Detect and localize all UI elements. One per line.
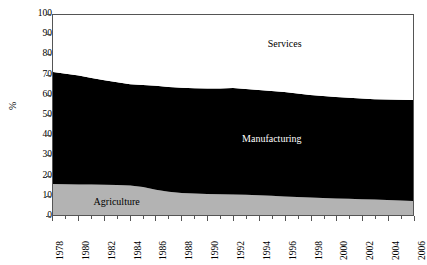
x-tick-mark xyxy=(104,216,105,221)
x-tick-mark xyxy=(285,216,286,221)
x-tick-mark-minor xyxy=(272,216,273,219)
x-tick-mark-minor xyxy=(349,216,350,219)
x-tick-label: 1988 xyxy=(185,241,195,260)
x-tick-mark-minor xyxy=(246,216,247,219)
x-tick-label: 1980 xyxy=(82,241,92,260)
x-tick-mark xyxy=(207,216,208,221)
stacked-area-chart: % 0102030405060708090100 Services Manufa… xyxy=(0,0,427,265)
x-tick-mark-minor xyxy=(194,216,195,219)
x-tick-mark xyxy=(78,216,79,221)
x-tick-label: 1984 xyxy=(134,241,144,260)
x-tick-mark-minor xyxy=(143,216,144,219)
x-tick-mark xyxy=(155,216,156,221)
x-tick-mark xyxy=(233,216,234,221)
x-tick-label: 2004 xyxy=(392,241,402,260)
x-tick-label: 2006 xyxy=(418,241,427,260)
x-tick-mark-minor xyxy=(65,216,66,219)
x-tick-mark xyxy=(362,216,363,221)
x-tick-mark-minor xyxy=(401,216,402,219)
x-tick-mark xyxy=(130,216,131,221)
x-tick-mark-minor xyxy=(324,216,325,219)
x-tick-mark-minor xyxy=(220,216,221,219)
x-tick-mark xyxy=(388,216,389,221)
x-tick-mark xyxy=(52,216,53,221)
x-tick-mark-minor xyxy=(168,216,169,219)
x-tick-mark xyxy=(414,216,415,221)
x-tick-mark-minor xyxy=(375,216,376,219)
x-tick-label: 2002 xyxy=(366,241,376,260)
x-tick-label: 1998 xyxy=(315,241,325,260)
x-axis-ticks: 1978198019821984198619881990199219941996… xyxy=(0,0,427,265)
x-tick-label: 1994 xyxy=(263,241,273,260)
x-tick-label: 1990 xyxy=(211,241,221,260)
x-tick-label: 2000 xyxy=(340,241,350,260)
x-tick-mark xyxy=(259,216,260,221)
x-tick-mark-minor xyxy=(117,216,118,219)
x-tick-label: 1996 xyxy=(289,241,299,260)
x-tick-mark xyxy=(181,216,182,221)
x-tick-mark-minor xyxy=(91,216,92,219)
x-tick-label: 1978 xyxy=(56,241,66,260)
x-tick-mark-minor xyxy=(298,216,299,219)
x-tick-mark xyxy=(336,216,337,221)
x-tick-label: 1986 xyxy=(159,241,169,260)
x-tick-label: 1982 xyxy=(108,241,118,260)
x-tick-label: 1992 xyxy=(237,241,247,260)
x-tick-mark xyxy=(311,216,312,221)
